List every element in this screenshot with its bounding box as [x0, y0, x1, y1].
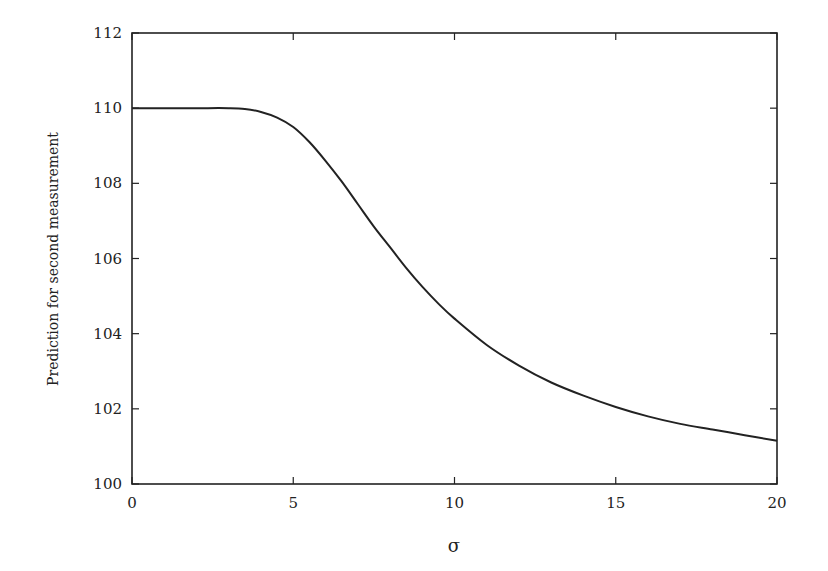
- x-tick-label: 5: [288, 494, 298, 512]
- x-tick-label: 0: [127, 494, 137, 512]
- y-tick-label: 100: [93, 475, 122, 493]
- x-tick-label: 20: [767, 494, 786, 512]
- y-tick-label: 110: [93, 99, 122, 117]
- y-tick-label: 102: [93, 400, 122, 418]
- y-tick-label: 108: [93, 174, 122, 192]
- y-tick-label: 112: [93, 24, 122, 42]
- x-tick-label: 10: [445, 494, 464, 512]
- plot-border: [132, 33, 777, 484]
- y-tick-label: 104: [93, 325, 122, 343]
- x-axis: 05101520: [127, 33, 786, 512]
- x-axis-title: σ: [448, 535, 460, 556]
- line-chart: 100102104106108110112 05101520 σ Predict…: [0, 0, 828, 571]
- plot-frame: [132, 33, 777, 484]
- y-axis-title: Prediction for second measurement: [45, 132, 61, 386]
- x-tick-label: 15: [606, 494, 625, 512]
- prediction-curve: [132, 108, 777, 441]
- y-tick-label: 106: [93, 250, 122, 268]
